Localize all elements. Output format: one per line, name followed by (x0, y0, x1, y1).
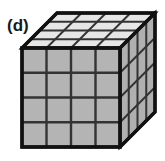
figure-panel-d: (d) (0, 0, 165, 161)
panel-label: (d) (7, 16, 29, 36)
cube-front-face (22, 48, 120, 147)
